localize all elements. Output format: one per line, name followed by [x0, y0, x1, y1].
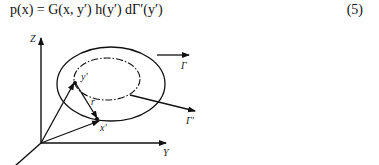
- label-y-axis: Y: [163, 147, 170, 158]
- label-gamma-prime: Γ′: [185, 115, 195, 126]
- label-point-x: x′: [99, 122, 107, 133]
- label-gamma: Γ: [180, 60, 187, 71]
- coordinate-diagram: Z Y y′ x′ r Γ Γ′: [0, 0, 379, 165]
- label-r: r: [91, 96, 95, 107]
- x-axis: [15, 143, 41, 165]
- label-point-y: y′: [80, 71, 88, 82]
- label-z: Z: [30, 33, 36, 44]
